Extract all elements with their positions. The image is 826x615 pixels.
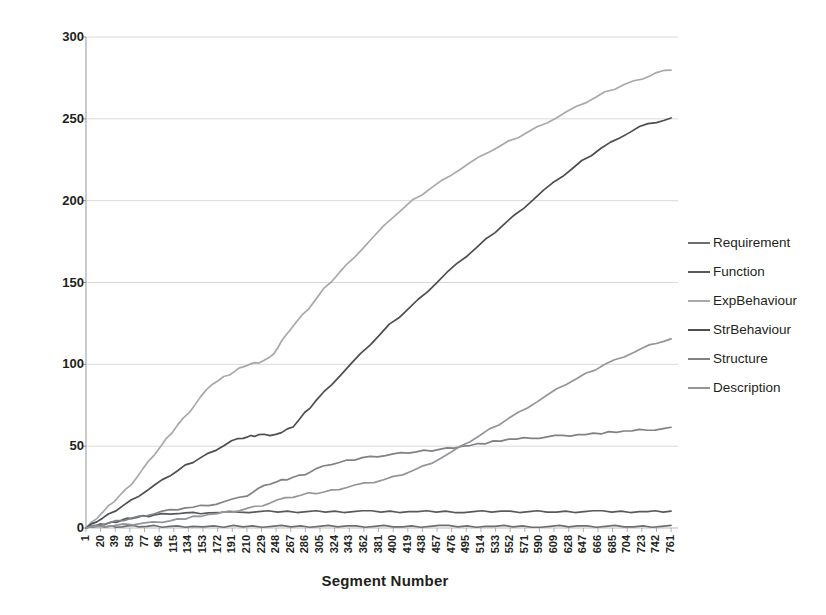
legend-item-requirement[interactable]: Requirement xyxy=(688,228,824,257)
legend-label: Description xyxy=(713,380,781,395)
legend-label: Requirement xyxy=(713,235,790,250)
x-tick-label: 229 xyxy=(256,535,267,553)
x-tick-label: 438 xyxy=(416,535,427,553)
x-tick-label: 514 xyxy=(475,535,486,553)
legend-swatch-icon xyxy=(688,271,710,273)
legend-item-structure[interactable]: Structure xyxy=(688,344,824,373)
x-axis-title: Segment Number xyxy=(90,572,680,589)
x-tick-label: 400 xyxy=(387,535,398,553)
x-tick-label: 704 xyxy=(621,535,632,553)
x-tick-label: 533 xyxy=(490,535,501,553)
x-tick-label: 609 xyxy=(548,535,559,553)
x-tick-label: 191 xyxy=(226,535,237,553)
x-tick-label: 248 xyxy=(270,535,281,553)
x-tick-label: 267 xyxy=(285,535,296,553)
x-tick-label: 685 xyxy=(607,535,618,553)
legend-label: Structure xyxy=(713,351,768,366)
x-tick-label: 761 xyxy=(665,535,676,553)
x-tick-label: 723 xyxy=(636,535,647,553)
x-tick-label: 39 xyxy=(109,535,120,547)
legend-item-strbehaviour[interactable]: StrBehaviour xyxy=(688,315,824,344)
x-tick-label: 20 xyxy=(95,535,106,547)
x-tick-label: 628 xyxy=(563,535,574,553)
x-tick-label: 305 xyxy=(314,535,325,553)
legend-swatch-icon xyxy=(688,300,710,302)
x-tick-label: 742 xyxy=(650,535,661,553)
legend-label: Function xyxy=(713,264,765,279)
x-tick-label: 172 xyxy=(212,535,223,553)
x-tick-label: 495 xyxy=(460,535,471,553)
x-tick-label: 362 xyxy=(358,535,369,553)
x-tick-label: 134 xyxy=(182,535,193,553)
x-tick-label: 571 xyxy=(519,535,530,553)
x-tick-label: 590 xyxy=(533,535,544,553)
x-tick-label: 343 xyxy=(343,535,354,553)
legend-swatch-icon xyxy=(688,242,710,244)
legend-swatch-icon xyxy=(688,358,710,360)
legend-item-function[interactable]: Function xyxy=(688,257,824,286)
legend-item-description[interactable]: Description xyxy=(688,373,824,402)
x-tick-label: 647 xyxy=(577,535,588,553)
x-tick-label: 210 xyxy=(241,535,252,553)
x-tick-label: 77 xyxy=(139,535,150,547)
x-tick-label: 96 xyxy=(153,535,164,547)
legend-swatch-icon xyxy=(688,387,710,389)
legend-label: StrBehaviour xyxy=(713,322,791,337)
x-tick-label: 419 xyxy=(402,535,413,553)
x-tick-label: 476 xyxy=(446,535,457,553)
x-tick-label: 552 xyxy=(504,535,515,553)
x-tick-label: 457 xyxy=(431,535,442,553)
legend-item-expbehaviour[interactable]: ExpBehaviour xyxy=(688,286,824,315)
legend-swatch-icon xyxy=(688,329,710,331)
x-tick-label: 58 xyxy=(124,535,135,547)
legend-label: ExpBehaviour xyxy=(713,293,797,308)
cumulative-occurrence-chart: Cumulative Occurance 050100150200250300 … xyxy=(0,0,826,615)
x-tick-label: 324 xyxy=(329,535,340,553)
x-tick-label: 666 xyxy=(592,535,603,553)
chart-legend: RequirementFunctionExpBehaviourStrBehavi… xyxy=(688,228,824,402)
x-tick-label: 115 xyxy=(168,535,179,553)
x-tick-label: 153 xyxy=(197,535,208,553)
x-tick-label: 1 xyxy=(80,535,91,541)
x-tick-label: 381 xyxy=(373,535,384,553)
x-tick-label: 286 xyxy=(299,535,310,553)
